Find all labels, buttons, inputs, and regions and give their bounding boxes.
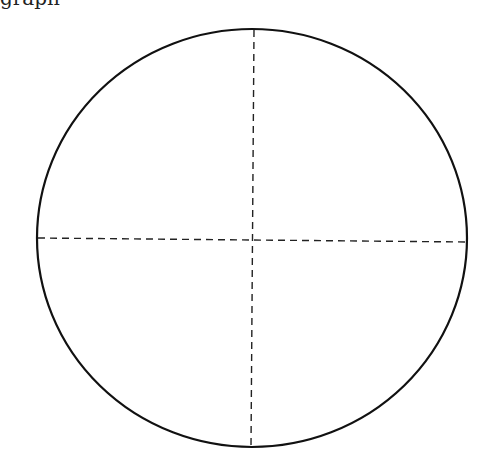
vertical-dashed-diameter (251, 30, 254, 447)
circle-diagram (0, 0, 493, 474)
